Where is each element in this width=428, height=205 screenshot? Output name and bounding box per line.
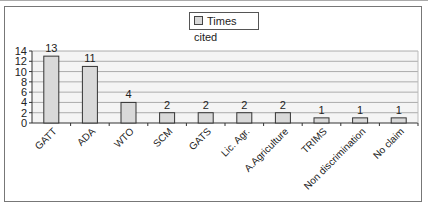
y-tick-label: 6 [21,86,27,98]
bar [314,118,329,123]
data-label: 1 [318,104,324,116]
bar-chart: 0246810121413GATT11ADA4WTO2SCM2GATS2Lic.… [0,0,428,205]
data-label: 2 [280,99,286,111]
data-label: 13 [45,42,57,54]
bar [353,118,368,123]
x-tick-label: Lic. Agr. [219,126,252,159]
bar [237,113,252,123]
bar [198,113,213,123]
y-tick-label: 2 [21,107,27,119]
x-tick-label: GATT [33,126,59,152]
data-label: 2 [203,99,209,111]
bar [160,113,175,123]
y-tick-label: 0 [21,117,27,129]
bar [391,118,406,123]
y-tick-label: 14 [15,45,27,57]
data-label: 2 [164,99,170,111]
bar [44,56,59,123]
data-label: 1 [396,104,402,116]
x-tick-label: No claim [371,126,406,161]
y-tick-label: 4 [21,96,27,108]
bar [82,66,97,123]
x-tick-label: ADA [75,125,98,148]
y-tick-label: 12 [15,55,27,67]
x-tick-label: SCM [151,126,175,150]
y-tick-label: 8 [21,76,27,88]
x-tick-label: TRIMS [299,125,329,155]
y-tick-label: 10 [15,66,27,78]
x-tick-label: WTO [112,125,136,149]
bar [121,102,136,123]
data-label: 4 [125,88,131,100]
data-label: 11 [84,52,95,64]
data-label: 2 [241,99,247,111]
data-label: 1 [357,104,363,116]
x-tick-label: GATS [187,125,214,152]
bar [275,113,290,123]
